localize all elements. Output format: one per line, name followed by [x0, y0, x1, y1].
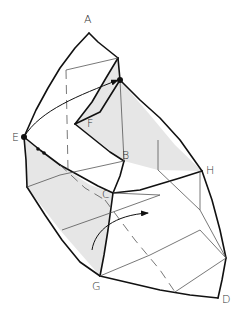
label-e: E	[12, 132, 19, 143]
label-h: H	[206, 165, 214, 176]
point-fold-marker	[117, 77, 123, 83]
label-g: G	[92, 281, 101, 292]
label-a: A	[84, 14, 92, 25]
label-c: C	[102, 189, 110, 200]
label-b: B	[122, 150, 129, 161]
fold-dot-1	[36, 147, 40, 151]
folded-diagram: A E F B C H G D	[0, 0, 244, 322]
point-e-marker	[21, 134, 27, 140]
label-d: D	[222, 294, 230, 305]
label-f: F	[87, 118, 93, 129]
fold-dot-2	[42, 151, 46, 155]
